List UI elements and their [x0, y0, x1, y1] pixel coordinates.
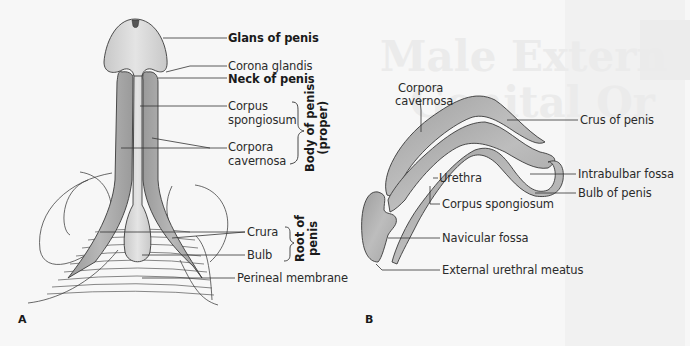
label-b-corpora-cavernosa-line2: cavernosa: [395, 95, 453, 108]
group-label-root-of-penis: Root of penis: [294, 215, 320, 262]
label-b-corpus-spongiosum: Corpus spongiosum: [442, 198, 554, 211]
group-label-root-line2: penis: [307, 215, 320, 262]
label-corpora-cavernosa-line1: Corpora: [228, 141, 273, 154]
label-crura: Crura: [247, 226, 278, 239]
group-label-body-of-penis: Body of penis (proper): [304, 84, 330, 172]
group-label-body-line2: (proper): [317, 84, 330, 172]
label-corpus-spongiosum-line1: Corpus: [228, 100, 268, 113]
label-corpora-cavernosa-line2: cavernosa: [228, 155, 286, 168]
label-b-crus-of-penis: Crus of penis: [580, 114, 654, 127]
label-b-navicular-fossa: Navicular fossa: [442, 232, 529, 245]
label-b-urethra: Urethra: [439, 172, 482, 185]
label-bulb: Bulb: [247, 249, 272, 262]
label-b-intrabulbar-fossa: Intrabulbar fossa: [578, 168, 674, 181]
label-neck-of-penis: Neck of penis: [228, 73, 315, 86]
label-perineal-membrane: Perineal membrane: [237, 272, 348, 285]
label-glans-of-penis: Glans of penis: [228, 32, 319, 45]
panel-letter-b: B: [365, 313, 373, 326]
label-b-external-urethral-meatus: External urethral meatus: [442, 264, 583, 277]
label-corpus-spongiosum-line2: spongiosum: [228, 114, 297, 127]
label-b-bulb-of-penis: Bulb of penis: [578, 187, 652, 200]
panel-letter-a: A: [18, 313, 27, 326]
